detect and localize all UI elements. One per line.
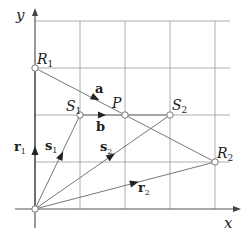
label-vector-r1: r1 [14, 139, 26, 156]
vector-r1-arrow-icon [32, 146, 39, 155]
point-origin [32, 206, 38, 212]
label-vector-a: a [95, 81, 104, 96]
label-vector-s2: s2 [100, 139, 112, 156]
vector-s1-arrow-icon [56, 150, 66, 161]
vector-diagram: x y R1 R2 S1 S2 P r1 s1 s2 [0, 0, 245, 237]
label-R1: R1 [36, 51, 53, 69]
point-P [122, 112, 128, 118]
label-vector-s1: s1 [45, 138, 57, 155]
label-S2: S2 [172, 97, 187, 115]
y-axis-label: y [15, 6, 25, 24]
axes [15, 12, 236, 228]
label-P: P [111, 95, 122, 111]
x-axis-arrow-icon [233, 206, 241, 212]
y-axis-arrow-icon [32, 8, 38, 16]
label-vector-b: b [96, 119, 105, 134]
label-S1: S1 [66, 98, 81, 116]
x-axis-label: x [224, 214, 233, 232]
label-R2: R2 [216, 145, 233, 163]
vector-b-arrow-icon [98, 112, 106, 119]
label-vector-r2: r2 [138, 180, 150, 197]
